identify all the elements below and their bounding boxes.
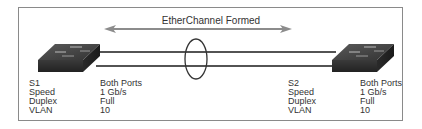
s1-vlan-key: VLAN [29,106,53,115]
bundle-ellipse-icon [185,39,207,79]
s1-vlan-value: 10 [100,106,110,115]
switch-s1-icon [38,44,100,72]
etherchannel-links [96,52,336,66]
etherchannel-arrow [104,25,292,33]
s2-vlan-value: 10 [360,106,370,115]
diagram-title: EtherChannel Formed [0,15,422,26]
switch-s2-icon [332,44,394,72]
s2-vlan-key: VLAN [288,106,312,115]
